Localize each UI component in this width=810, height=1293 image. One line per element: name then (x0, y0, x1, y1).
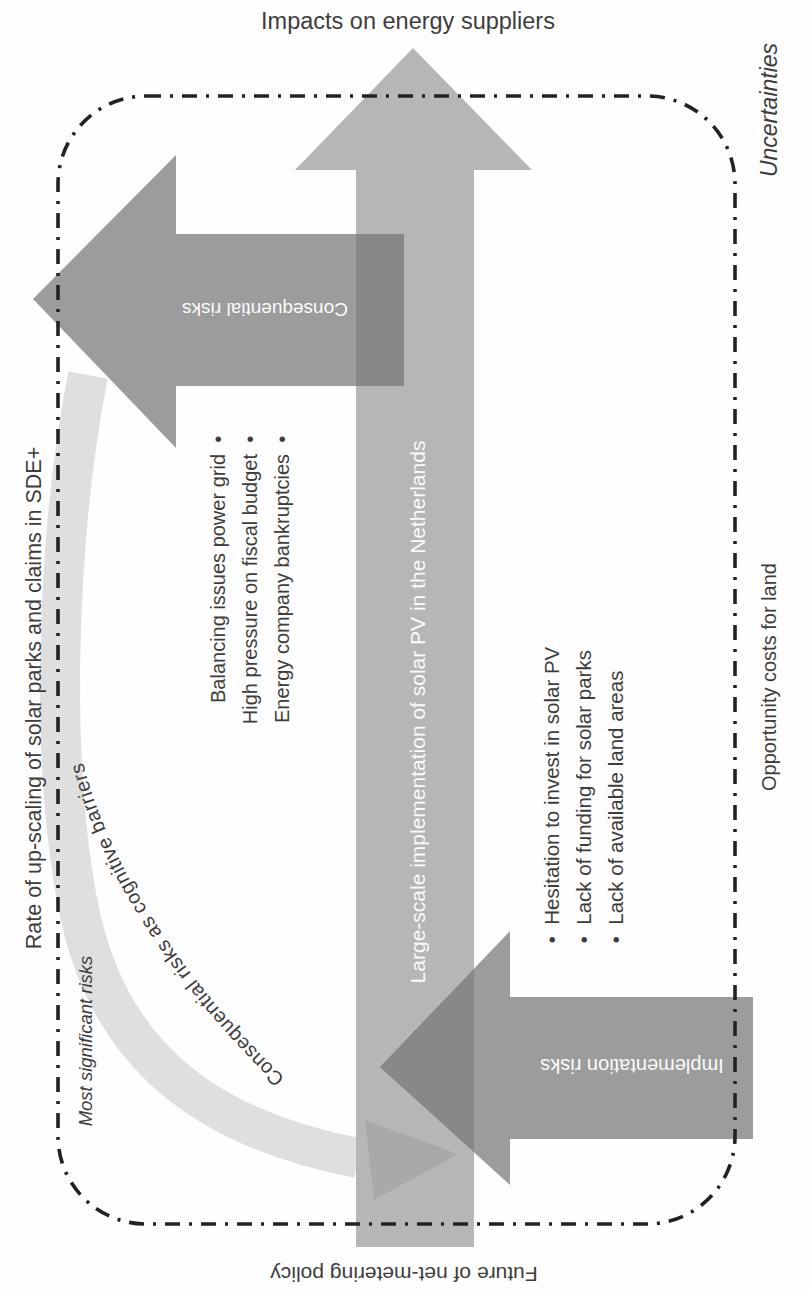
rate-upscaling-label: Rate of up-scaling of solar parks and cl… (23, 447, 47, 950)
implementation-arrow-label: Implementation risks (540, 1055, 723, 1077)
central-arrow-label: Large-scale implementation of solar PV i… (406, 441, 429, 984)
implementation-risk-item: Lack of available land areas (600, 647, 632, 944)
consequential-risk-item: Energy company bankruptcies (266, 436, 298, 724)
top-label: Impacts on energy suppliers (261, 9, 555, 35)
consequential-risk-item: High pressure on fiscal budget (234, 436, 266, 724)
opportunity-costs-label: Opportunity costs for land (758, 563, 780, 791)
diagram-graphics: Consequential risks as cognitive barrier… (0, 0, 810, 1293)
consequential-arrow-label: Consequential risks (182, 299, 348, 320)
consequential-risk-list: Balancing issues power grid High pressur… (202, 436, 298, 724)
implementation-risk-list: Hesitation to invest in solar PV Lack of… (536, 647, 632, 944)
uncertainties-label: Uncertainties (757, 43, 782, 177)
implementation-risk-item: Hesitation to invest in solar PV (536, 647, 568, 944)
bottom-label: Future of net-metering policy (270, 1262, 537, 1285)
consequential-risk-item: Balancing issues power grid (202, 436, 234, 724)
figure-canvas: Consequential risks as cognitive barrier… (0, 0, 810, 1293)
consequential-central-overlap (356, 234, 404, 386)
implementation-risk-item: Lack of funding for solar parks (568, 647, 600, 944)
most-significant-risks-label: Most significant risks (76, 956, 96, 1127)
